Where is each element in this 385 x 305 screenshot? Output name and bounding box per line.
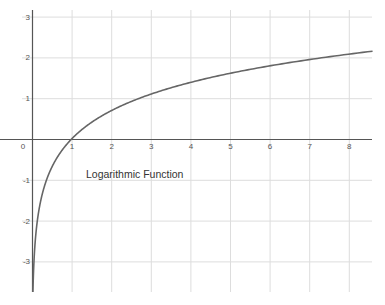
y-tick-label: 3	[26, 13, 31, 22]
x-tick-label: 3	[149, 142, 154, 151]
chart-title: Logarithmic Function	[86, 168, 184, 180]
y-tick-label: -2	[23, 217, 31, 226]
axes	[0, 10, 372, 292]
log-function-chart: 012345678-3-2-1123 Logarithmic Function	[0, 0, 385, 305]
y-tick-label: -1	[23, 176, 31, 185]
x-tick-label: 8	[347, 142, 352, 151]
y-tick-label: 1	[26, 94, 31, 103]
x-tick-label: 7	[307, 142, 312, 151]
grid-lines	[22, 10, 372, 292]
y-tick-label: -3	[23, 257, 31, 266]
x-tick-label: 4	[189, 142, 194, 151]
x-tick-label: 0	[21, 142, 26, 151]
x-tick-label: 6	[268, 142, 273, 151]
x-tick-label: 1	[70, 142, 75, 151]
log-curve	[33, 51, 373, 292]
x-tick-label: 2	[109, 142, 114, 151]
x-tick-label: 5	[228, 142, 233, 151]
y-tick-label: 2	[26, 53, 31, 62]
